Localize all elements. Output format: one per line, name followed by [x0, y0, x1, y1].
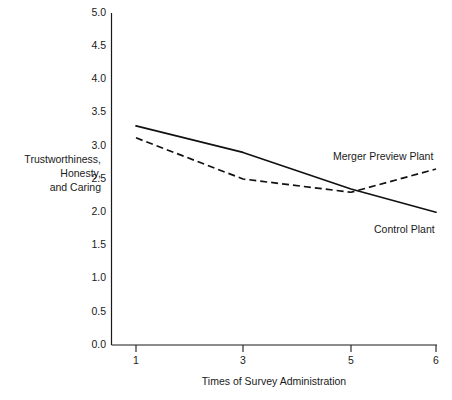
series-line-merger-preview-plant	[136, 138, 436, 192]
x-tick-label: 5	[348, 354, 354, 366]
series-line-control-plant	[136, 126, 436, 212]
y-axis-title: Trustworthiness, Honesty, and Caring	[24, 153, 101, 193]
y-tick-label: 0.0	[91, 338, 106, 350]
y-axis-title-line: Honesty,	[60, 167, 101, 179]
y-tick-label: 3.0	[91, 139, 106, 151]
y-tick-label: 5.0	[91, 6, 106, 18]
y-axis-title-line: Trustworthiness,	[24, 153, 101, 165]
y-tick-label: 1.0	[91, 271, 106, 283]
x-axis-tick-marks	[136, 345, 436, 352]
y-tick-label: 1.5	[91, 238, 106, 250]
y-tick-label: 4.5	[91, 39, 106, 51]
x-axis-ticks: 1 3 5 6	[133, 354, 439, 366]
y-tick-label: 4.0	[91, 72, 106, 84]
x-tick-label: 3	[240, 354, 246, 366]
x-tick-label: 1	[133, 354, 139, 366]
y-axis-title-line: and Caring	[50, 181, 102, 193]
x-axis-title: Times of Survey Administration	[202, 375, 346, 387]
chart-figure: 5.0 4.5 4.0 3.5 3.0 2.5 2.0 1.5 1.0 0.5 …	[0, 0, 452, 400]
series-label-merger-preview-plant: Merger Preview Plant	[333, 150, 433, 162]
y-tick-label: 0.5	[91, 305, 106, 317]
y-tick-label: 3.5	[91, 105, 106, 117]
y-tick-label: 2.0	[91, 205, 106, 217]
x-tick-label: 6	[433, 354, 439, 366]
series-label-control-plant: Control Plant	[374, 223, 435, 235]
line-chart-canvas: 5.0 4.5 4.0 3.5 3.0 2.5 2.0 1.5 1.0 0.5 …	[0, 0, 452, 400]
